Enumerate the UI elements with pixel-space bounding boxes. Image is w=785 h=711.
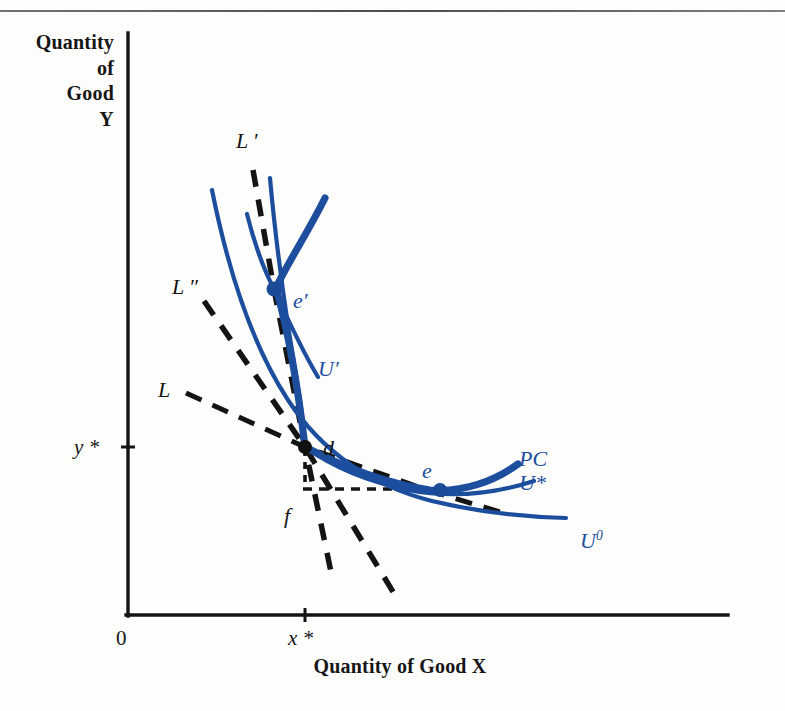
point-label-e-prime: e′ [293,288,308,314]
budget-line-label-L: L [158,377,170,403]
point-marker-e-prime [267,282,282,297]
point-label-d: d [323,435,334,461]
curve-PC [276,198,518,490]
curve-label-U-star: U* [519,470,546,496]
budget-lines-group [186,170,500,600]
x-axis-title: Quantity of Good X [255,655,545,678]
curve-label-U-zero-exponent: 0 [596,528,603,543]
x-tick-label-xstar: x * [288,626,313,651]
origin-label: 0 [116,626,127,651]
axes-group [121,33,728,622]
curve-label-PC: PC [519,446,547,472]
curve-label-U-zero: U0 [580,528,603,554]
indifference-curve-figure [0,0,785,711]
y-tick-label-ystar: y * [74,435,99,460]
y-axis-title: Quantity of Good Y [14,30,114,132]
budget-line-label-L-double-prime: L ″ [172,274,198,300]
figure-page: Quantity of Good Y Quantity of Good X 0 … [0,0,785,711]
curve-label-U-zero-base: U [580,528,596,553]
point-label-e: e [422,458,432,484]
point-label-f: f [284,503,290,529]
point-marker-e [433,483,447,497]
budget-line-label-L-prime: L ′ [236,128,257,154]
curve-label-U-prime: U′ [318,356,339,382]
point-marker-d [298,440,312,454]
